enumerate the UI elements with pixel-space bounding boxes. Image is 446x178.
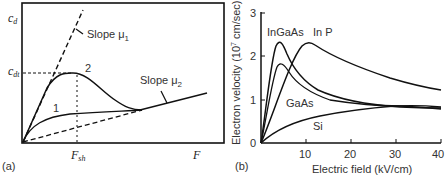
svg-text:30: 30 bbox=[389, 148, 401, 160]
panel-a-frame bbox=[22, 3, 224, 143]
svg-text:20: 20 bbox=[344, 148, 356, 160]
svg-text:1: 1 bbox=[250, 94, 256, 106]
f-axis-label: F bbox=[192, 148, 201, 162]
cdt-label: cdt bbox=[8, 64, 20, 79]
panel-a-label: (a) bbox=[2, 160, 15, 172]
panel-a: cd cdt Slope μ1 Slope μ2 2 1 Fsh F (a) bbox=[2, 3, 224, 172]
curve-2-label: 2 bbox=[85, 62, 91, 74]
curve-1-label: 1 bbox=[53, 102, 59, 114]
ingaas-label: InGaAs bbox=[267, 26, 304, 38]
svg-text:10: 10 bbox=[299, 148, 311, 160]
gaas-label: GaAs bbox=[286, 97, 314, 109]
slope-mu2-label: Slope μ2 bbox=[140, 74, 183, 89]
svg-text:2: 2 bbox=[250, 50, 256, 62]
si-label: Si bbox=[313, 120, 323, 132]
x-axis-label: Electric field (kV/cm) bbox=[312, 163, 412, 175]
fsh-label: Fsh bbox=[70, 148, 85, 163]
x-ticks: 10 20 30 40 bbox=[299, 139, 444, 160]
curve-2 bbox=[23, 73, 142, 142]
ingaas-curve bbox=[261, 42, 441, 143]
cd-label: cd bbox=[8, 11, 18, 26]
slope-mu1-pointer bbox=[76, 29, 83, 34]
y-axis-label: Electron velocity (107 cm/sec) bbox=[230, 0, 242, 145]
slope-mu1-label: Slope μ1 bbox=[87, 28, 130, 43]
panel-b: 0 1 2 3 10 20 30 40 InGaAs In P GaAs Si … bbox=[230, 0, 444, 175]
figure: cd cdt Slope μ1 Slope μ2 2 1 Fsh F (a) 0… bbox=[0, 0, 446, 178]
slope-mu2-pointer bbox=[161, 91, 167, 103]
svg-text:3: 3 bbox=[250, 7, 256, 19]
inp-label: In P bbox=[313, 26, 333, 38]
svg-text:0: 0 bbox=[250, 137, 256, 149]
slope-mu2-dashed-line bbox=[23, 110, 142, 142]
panel-b-label: (b) bbox=[235, 160, 248, 172]
slope-mu2-solid-line bbox=[140, 93, 207, 110]
svg-text:40: 40 bbox=[432, 148, 444, 160]
si-curve bbox=[261, 106, 441, 143]
